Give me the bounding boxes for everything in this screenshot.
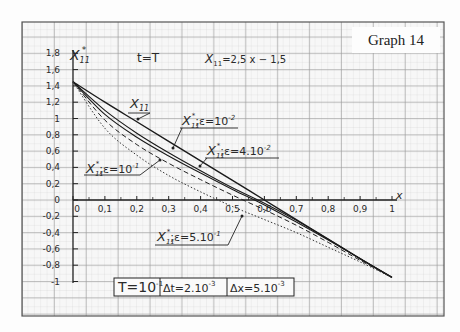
x-tick-label: 0,4	[193, 204, 208, 214]
x-tick-label: 0,5	[225, 204, 239, 214]
y-tick-label: 1,8	[46, 48, 61, 58]
chart-title: t=T	[137, 51, 160, 65]
x-tick-label: 0,3	[162, 204, 176, 214]
x-tick-label: 0,1	[98, 204, 112, 214]
graph-label: Graph 14	[368, 32, 425, 48]
x-tick-label: 0,2	[130, 204, 144, 214]
svg-text:X11*;ε=4.10-2: X11*;ε=4.10-2	[206, 142, 271, 160]
y-tick-label: -0,2	[42, 211, 60, 221]
x-tick-label: 1	[389, 204, 395, 214]
y-tick-label: 0,2	[46, 179, 60, 189]
y-tick-label: 0,6	[46, 146, 61, 156]
chart-canvas: Graph 14 00,10,20,30,40,50,60,70,80,91 1…	[0, 0, 460, 332]
y-tick-label: 1	[54, 114, 60, 124]
y-tick-label: 1,4	[46, 81, 61, 91]
y-tick-label: 0,8	[46, 130, 61, 140]
x-tick-label: 0,9	[353, 204, 368, 214]
y-tick-label: 0,4	[46, 162, 61, 172]
x-axis-label: x	[395, 189, 403, 202]
y-tick-label: -1	[51, 277, 60, 287]
y-tick-label: -0,8	[42, 260, 60, 270]
svg-text:X11*;ε=10-2: X11*;ε=10-2	[181, 112, 236, 130]
param-dx: Δx=5.10-3	[230, 280, 285, 295]
svg-text:X11*;ε=5.10-1: X11*;ε=5.10-1	[156, 228, 221, 246]
x-tick-label: 0,7	[289, 204, 303, 214]
y-tick-label: 1,2	[46, 97, 60, 107]
param-dt: Δt=2.10-3	[163, 280, 216, 295]
y-tick-label: 0	[54, 195, 60, 205]
x-tick-label: 0,8	[321, 204, 336, 214]
y-tick-label: -0,6	[42, 244, 60, 254]
y-tick-label: 1,6	[46, 65, 61, 75]
y-tick-label: -0,4	[42, 228, 60, 238]
parameters-box: T=10-1 Δt=2.10-3 Δx=5.10-3	[114, 278, 294, 296]
x-tick-label: 0	[74, 204, 80, 214]
